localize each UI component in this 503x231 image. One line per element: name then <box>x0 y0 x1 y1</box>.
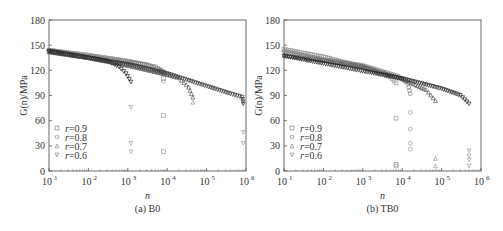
x-tick-label: 10 <box>395 176 405 187</box>
data-point <box>431 96 435 100</box>
data-point <box>191 100 195 104</box>
data-point <box>161 150 165 154</box>
x-tick-label: 10 <box>277 176 287 187</box>
data-point <box>394 116 398 120</box>
data-point <box>241 141 245 145</box>
y-tick-label: 150 <box>30 40 45 51</box>
y-tick-label: 150 <box>265 40 280 51</box>
data-point <box>129 105 133 109</box>
legend-marker-triangle-up <box>55 144 59 148</box>
series-r-0-6 <box>47 49 133 153</box>
data-point <box>467 164 471 168</box>
x-tick-exponent: 3 <box>368 174 372 182</box>
x-tick-label: 10 <box>474 176 484 187</box>
x-tick-label: 10 <box>239 176 249 187</box>
y-tick-label: 0 <box>40 166 45 177</box>
x-tick-exponent: 6 <box>251 174 255 182</box>
x-tick-label: 10 <box>160 176 170 187</box>
legend-marker-triangle-down <box>290 153 294 157</box>
legend-marker-triangle-up <box>290 144 294 148</box>
data-point <box>467 102 471 106</box>
x-axis-label: n <box>380 190 385 201</box>
y-tick-label: 120 <box>30 65 45 76</box>
legend-label: r=0.6 <box>300 150 322 161</box>
x-tick-exponent: 2 <box>93 174 97 182</box>
x-tick-exponent: 1 <box>54 174 58 182</box>
panel-caption: (a) B0 <box>135 203 160 215</box>
y-tick-label: 90 <box>35 90 45 101</box>
data-point <box>467 158 471 162</box>
y-axis-label: G(n)/MPa <box>253 75 265 116</box>
x-tick-label: 10 <box>316 176 326 187</box>
data-point <box>161 79 165 83</box>
data-point <box>408 147 412 151</box>
data-point <box>426 90 430 94</box>
x-tick-exponent: 5 <box>447 174 451 182</box>
legend-marker-square <box>55 126 59 130</box>
data-point <box>129 150 133 154</box>
y-tick-label: 0 <box>275 166 280 177</box>
legend: r=0.9r=0.8r=0.7r=0.6 <box>55 123 87 161</box>
data-point <box>161 114 165 118</box>
x-axis-label: n <box>145 190 150 201</box>
data-point <box>467 149 471 153</box>
figure: 0306090120150180101102103104105106nG(n)/… <box>0 0 503 231</box>
y-axis-label: G(n)/MPa <box>18 75 30 116</box>
legend-marker-square <box>290 126 294 130</box>
x-tick-label: 10 <box>356 176 366 187</box>
x-tick-exponent: 1 <box>289 174 293 182</box>
data-point <box>408 141 412 145</box>
y-tick-label: 120 <box>265 65 280 76</box>
data-point <box>129 141 133 145</box>
legend-marker-circle <box>55 135 59 139</box>
legend: r=0.9r=0.8r=0.7r=0.6 <box>290 123 322 161</box>
data-point <box>408 127 412 131</box>
y-tick-label: 60 <box>35 115 45 126</box>
data-point <box>434 157 438 161</box>
y-tick-label: 30 <box>35 140 45 151</box>
x-tick-label: 10 <box>42 176 52 187</box>
legend-marker-triangle-down <box>55 153 59 157</box>
panel-b0: 0306090120150180101102103104105106nG(n)/… <box>18 15 255 216</box>
y-tick-label: 90 <box>270 90 280 101</box>
x-tick-exponent: 5 <box>212 174 216 182</box>
panel-caption: (b) TB0 <box>367 203 399 215</box>
y-tick-label: 180 <box>265 15 280 26</box>
data-point <box>241 131 245 135</box>
x-tick-exponent: 3 <box>133 174 137 182</box>
x-tick-exponent: 2 <box>328 174 332 182</box>
x-tick-label: 10 <box>435 176 445 187</box>
data-point <box>429 93 433 97</box>
x-tick-label: 10 <box>81 176 91 187</box>
x-tick-label: 10 <box>121 176 131 187</box>
x-tick-exponent: 6 <box>486 174 490 182</box>
x-tick-label: 10 <box>200 176 210 187</box>
data-point <box>467 154 471 158</box>
y-tick-label: 180 <box>30 15 45 26</box>
x-tick-exponent: 4 <box>172 174 176 182</box>
y-tick-label: 60 <box>270 115 280 126</box>
data-point <box>434 164 438 168</box>
data-point <box>434 99 438 103</box>
data-point <box>129 80 133 84</box>
legend-label: r=0.6 <box>65 150 87 161</box>
y-tick-label: 30 <box>270 140 280 151</box>
data-point <box>408 110 412 114</box>
panel-tb0: 0306090120150180101102103104105106nG(n)/… <box>253 15 490 216</box>
legend-marker-circle <box>290 135 294 139</box>
x-tick-exponent: 4 <box>407 174 411 182</box>
